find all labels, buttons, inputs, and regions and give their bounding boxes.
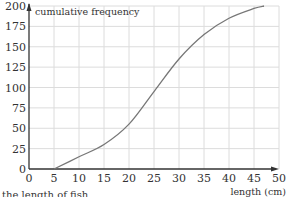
svg-text:150: 150 [5,41,26,54]
cumulative-frequency-chart: 05101520253035404550 0255075100125150175… [0,0,287,197]
svg-text:35: 35 [197,172,211,185]
svg-text:50: 50 [12,122,26,135]
y-axis-label: cumulative frequency [35,6,140,17]
svg-text:25: 25 [12,143,26,156]
svg-text:175: 175 [5,20,26,33]
x-tick-labels: 05101520253035404550 [26,172,287,185]
svg-text:100: 100 [5,82,26,95]
caption: the length of fish [2,189,88,197]
svg-text:20: 20 [122,172,136,185]
svg-text:15: 15 [97,172,111,185]
y-tick-labels: 0255075100125150175200 [5,0,26,176]
svg-text:25: 25 [147,172,161,185]
svg-text:30: 30 [172,172,186,185]
svg-text:5: 5 [51,172,58,185]
svg-text:0: 0 [26,172,33,185]
svg-text:10: 10 [72,172,86,185]
svg-text:0: 0 [19,163,26,176]
svg-text:200: 200 [5,0,26,13]
svg-text:75: 75 [12,102,26,115]
svg-text:45: 45 [247,172,261,185]
x-axis-label: length (cm) [230,186,286,197]
grid-lines [29,6,279,169]
svg-text:40: 40 [222,172,236,185]
svg-text:125: 125 [5,61,26,74]
svg-text:50: 50 [272,172,286,185]
